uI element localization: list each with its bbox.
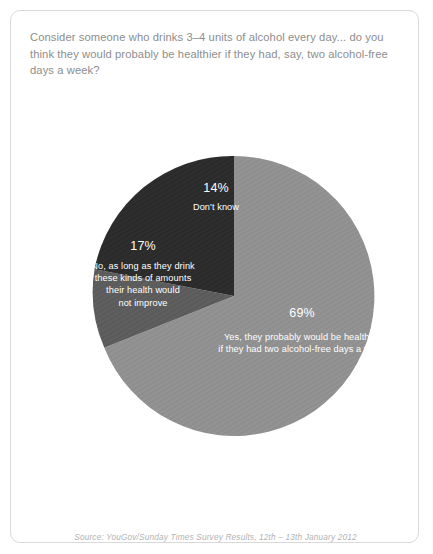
pie-chart-svg <box>89 151 379 441</box>
source-caption: Source: YouGov/Sunday Times Survey Resul… <box>11 532 420 542</box>
pie-chart: 69% Yes, they probably would be healthie… <box>11 11 418 542</box>
chart-card: Consider someone who drinks 3–4 units of… <box>10 10 419 543</box>
